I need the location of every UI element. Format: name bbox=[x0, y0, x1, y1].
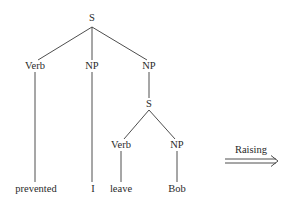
node-np-1: NP bbox=[84, 61, 99, 72]
leaf-prevented: prevented bbox=[14, 184, 57, 195]
node-np-2: NP bbox=[141, 61, 156, 72]
node-embedded-np: NP bbox=[169, 140, 184, 151]
edge-s-embedded-np bbox=[149, 110, 175, 139]
node-embedded-verb: Verb bbox=[110, 140, 132, 151]
leaf-leave: leave bbox=[109, 184, 133, 195]
node-root-s: S bbox=[88, 13, 96, 24]
edge-s-np2 bbox=[92, 27, 147, 60]
leaf-bob: Bob bbox=[167, 184, 187, 195]
transformation-label: Raising bbox=[234, 145, 268, 156]
node-verb: Verb bbox=[24, 61, 46, 72]
edge-s-verb bbox=[38, 27, 92, 60]
node-embedded-s: S bbox=[145, 99, 153, 110]
edge-s-embedded-verb bbox=[124, 110, 149, 139]
double-arrow-icon bbox=[225, 156, 278, 167]
leaf-i: I bbox=[90, 184, 96, 195]
syntax-tree-diagram: S Verb NP NP S Verb NP prevented I leave… bbox=[0, 0, 291, 206]
